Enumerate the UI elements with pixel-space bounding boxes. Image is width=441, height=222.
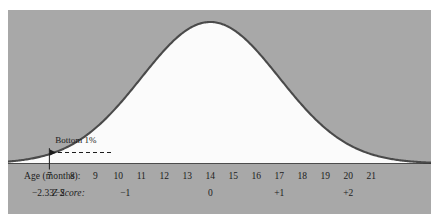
normal-distribution-figure: Bottom 1% Age (months): 7891011121314151… bbox=[0, 0, 441, 222]
age-tick-8: 8 bbox=[70, 171, 75, 181]
age-tick-13: 13 bbox=[183, 171, 193, 181]
annotation-label: Bottom 1% bbox=[40, 135, 112, 145]
zscore-tick-3: 0 bbox=[208, 188, 213, 198]
age-tick-19: 19 bbox=[321, 171, 331, 181]
age-tick-20: 20 bbox=[343, 171, 353, 181]
dashed-left-arrow-icon bbox=[40, 148, 112, 157]
age-tick-15: 15 bbox=[229, 171, 239, 181]
chart-panel: Bottom 1% Age (months): 7891011121314151… bbox=[8, 10, 431, 214]
age-tick-18: 18 bbox=[298, 171, 308, 181]
age-tick-10: 10 bbox=[114, 171, 124, 181]
zscore-tick-2: −1 bbox=[120, 188, 130, 198]
age-tick-9: 9 bbox=[93, 171, 98, 181]
age-tick-17: 17 bbox=[275, 171, 285, 181]
bottom-percent-annotation: Bottom 1% bbox=[40, 135, 112, 145]
age-tick-16: 16 bbox=[252, 171, 262, 181]
age-tick-12: 12 bbox=[160, 171, 170, 181]
zscore-tick-5: +2 bbox=[343, 188, 353, 198]
age-tick-21: 21 bbox=[366, 171, 376, 181]
age-tick-7: 7 bbox=[47, 171, 52, 181]
zscore-axis-row: Z Score: −2.33−2−10+1+2 bbox=[8, 187, 431, 202]
age-tick-14: 14 bbox=[206, 171, 216, 181]
age-tick-11: 11 bbox=[137, 171, 146, 181]
zscore-tick-4: +1 bbox=[274, 188, 284, 198]
age-axis-row: Age (months): 78910111213141516171819202… bbox=[8, 170, 431, 185]
zscore-tick-1: −2 bbox=[55, 188, 65, 198]
zscore-tick-0: −2.33 bbox=[32, 188, 54, 198]
